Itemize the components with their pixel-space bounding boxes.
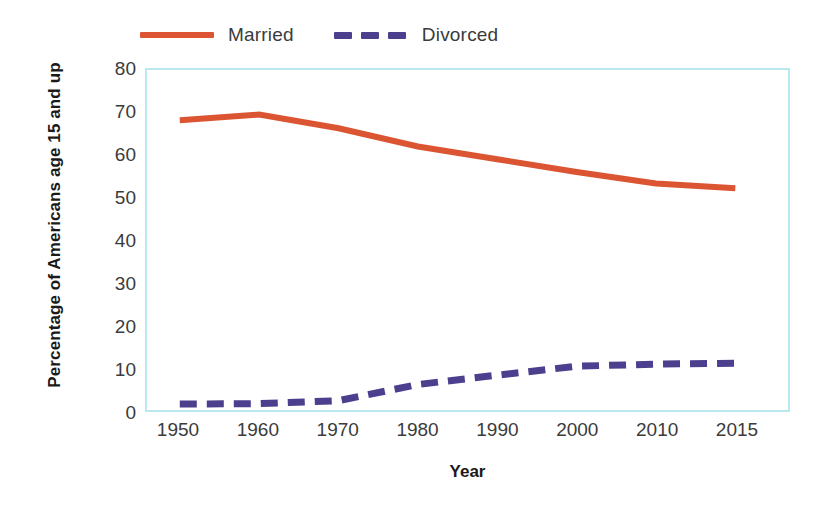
x-tick-label: 1990 xyxy=(457,420,537,439)
y-tick-label: 20 xyxy=(92,317,136,336)
x-axis-title: Year xyxy=(145,462,790,482)
legend-item-divorced: Divorced xyxy=(334,24,499,46)
series-line-divorced xyxy=(180,363,736,404)
x-tick-label: 2010 xyxy=(617,420,697,439)
x-tick-label: 1950 xyxy=(138,420,218,439)
y-tick-label: 60 xyxy=(92,145,136,164)
chart-screenshot: Married Divorced Percentage of Americans… xyxy=(0,0,827,508)
y-axis-tick-labels: 01020304050607080 xyxy=(88,68,136,412)
y-tick-label: 40 xyxy=(92,231,136,250)
y-tick-label: 10 xyxy=(92,360,136,379)
y-tick-label: 80 xyxy=(92,59,136,78)
x-tick-label: 1970 xyxy=(298,420,378,439)
y-axis-title: Percentage of Americans age 15 and up xyxy=(45,25,65,425)
legend-item-married: Married xyxy=(140,24,294,46)
y-tick-label: 70 xyxy=(92,102,136,121)
x-axis-tick-labels: 19501960197019801990200020102015 xyxy=(145,420,790,450)
y-tick-label: 0 xyxy=(92,403,136,422)
y-tick-label: 30 xyxy=(92,274,136,293)
legend-label-married: Married xyxy=(228,24,294,46)
plot-area xyxy=(145,68,790,412)
dash-segment-icon xyxy=(388,32,406,39)
dash-segment-icon xyxy=(361,32,379,39)
x-tick-label: 1980 xyxy=(378,420,458,439)
x-tick-label: 2000 xyxy=(537,420,617,439)
series-line-married xyxy=(180,115,736,189)
dash-segment-icon xyxy=(334,32,352,39)
plot-series-canvas xyxy=(147,70,788,410)
x-tick-label: 1960 xyxy=(218,420,298,439)
legend-label-divorced: Divorced xyxy=(422,24,499,46)
y-tick-label: 50 xyxy=(92,188,136,207)
married-line-swatch-icon xyxy=(140,32,214,38)
divorced-line-swatch-icon xyxy=(334,32,408,39)
x-tick-label: 2015 xyxy=(697,420,777,439)
chart-legend: Married Divorced xyxy=(140,18,660,52)
